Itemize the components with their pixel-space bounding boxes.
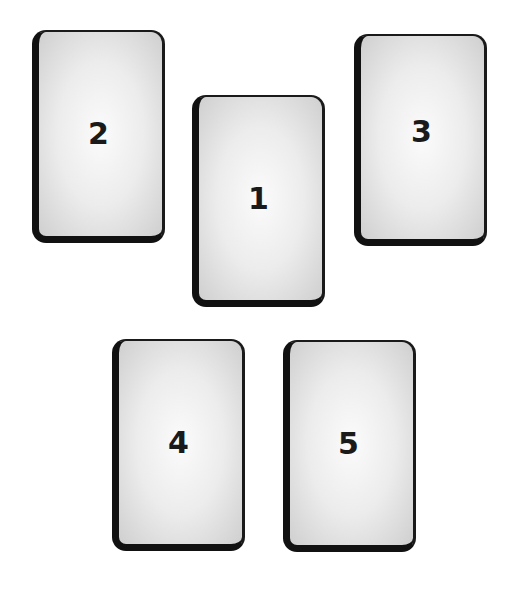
card-number: 2: [88, 119, 109, 149]
card-2: 2: [32, 30, 165, 243]
card-number: 1: [248, 184, 269, 214]
card-1: 1: [192, 95, 325, 307]
card-number: 4: [168, 428, 189, 458]
card-number: 5: [338, 429, 359, 459]
card-3: 3: [354, 34, 487, 246]
card-4: 4: [112, 339, 245, 551]
card-5: 5: [283, 340, 416, 552]
card-number: 3: [411, 117, 432, 147]
